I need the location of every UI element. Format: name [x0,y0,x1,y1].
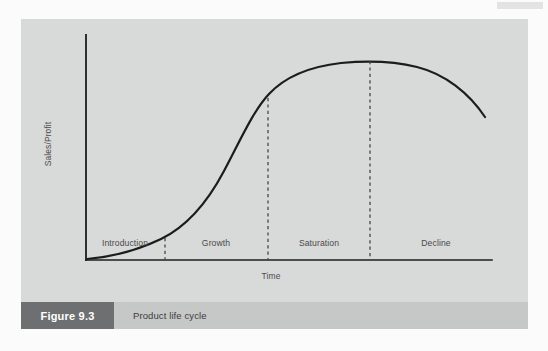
x-axis-title: Time [231,271,311,281]
figure-caption-bar: Figure 9.3 Product life cycle [21,302,528,329]
figure-block: Sales/Profit Time Introduction Growth Sa… [21,19,528,329]
figure-caption-text: Product life cycle [133,302,207,329]
stage-label-introduction: Introduction [85,238,165,248]
figure-number-box: Figure 9.3 [21,302,114,329]
chart-panel: Sales/Profit Time Introduction Growth Sa… [21,19,528,302]
stage-label-saturation: Saturation [279,238,359,248]
stage-label-decline: Decline [396,238,476,248]
stage-label-growth: Growth [176,238,256,248]
figure-number-label: Figure 9.3 [41,310,95,322]
scan-edge-strip [497,2,543,9]
product-life-cycle-chart [21,19,528,302]
life-cycle-curve [87,61,485,259]
y-axis-title: Sales/Profit [43,94,53,194]
